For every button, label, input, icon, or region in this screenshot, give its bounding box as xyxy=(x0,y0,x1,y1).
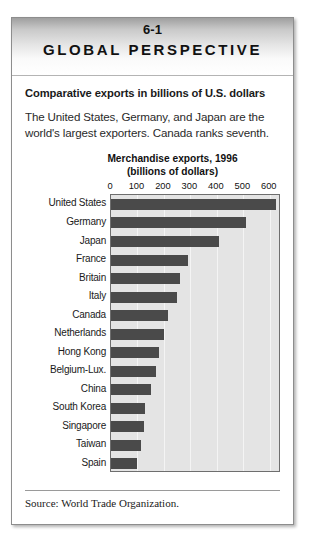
category-label: Italy xyxy=(89,290,106,301)
x-tick-label: 300 xyxy=(182,181,198,191)
chart-bar xyxy=(111,329,164,340)
chart-bar xyxy=(111,366,156,377)
chart-plot-area xyxy=(110,194,280,472)
chart-title: Merchandise exports, 1996 (billions of d… xyxy=(25,153,280,178)
x-tick-label: 0 xyxy=(107,181,112,191)
category-label: Japan xyxy=(80,235,106,246)
category-label: United States xyxy=(49,197,106,208)
chart-bar xyxy=(111,310,168,321)
category-label: Singapore xyxy=(62,420,106,431)
category-label: Canada xyxy=(72,309,106,320)
source-note: Source: World Trade Organization. xyxy=(25,497,280,509)
panel-banner: 6-1 GLOBAL PERSPECTIVE xyxy=(12,18,293,76)
bar-chart: 0100200300400500600 United StatesGermany… xyxy=(25,181,280,481)
panel-title: GLOBAL PERSPECTIVE xyxy=(12,41,293,58)
x-tick-label: 600 xyxy=(261,181,277,191)
chart-bar xyxy=(111,384,151,395)
chart-bar xyxy=(111,347,159,358)
panel-description: The United States, Germany, and Japan ar… xyxy=(25,109,280,140)
category-label: Spain xyxy=(81,457,106,468)
category-label: Britain xyxy=(79,272,106,283)
category-label: France xyxy=(76,253,106,264)
category-label: South Korea xyxy=(53,401,106,412)
category-label: Hong Kong xyxy=(58,346,106,357)
category-label: Germany xyxy=(66,216,106,227)
chart-bar xyxy=(111,292,177,303)
x-tick-label: 200 xyxy=(155,181,171,191)
chart-bar xyxy=(111,236,219,247)
gridline xyxy=(243,195,244,471)
chart-bar xyxy=(111,440,141,451)
x-tick-label: 500 xyxy=(235,181,251,191)
x-axis-tick-labels: 0100200300400500600 xyxy=(25,181,280,194)
chart-bar xyxy=(111,421,144,432)
chart-title-line2: (billions of dollars) xyxy=(65,166,280,179)
chart-bar xyxy=(111,458,137,469)
category-label: Taiwan xyxy=(76,438,106,449)
panel-body: Comparative exports in billions of U.S. … xyxy=(12,87,293,481)
x-tick-label: 400 xyxy=(208,181,224,191)
footer-divider xyxy=(25,490,280,491)
chart-bar xyxy=(111,403,145,414)
panel-subtitle: Comparative exports in billions of U.S. … xyxy=(25,87,280,99)
panel-number: 6-1 xyxy=(12,22,293,37)
chart-title-line1: Merchandise exports, 1996 xyxy=(65,153,280,166)
category-label: China xyxy=(81,383,106,394)
category-label: Belgium-Lux. xyxy=(50,364,106,375)
gridline xyxy=(270,195,271,471)
chart-bar xyxy=(111,217,246,228)
category-label: Netherlands xyxy=(54,327,106,338)
x-tick-label: 100 xyxy=(129,181,145,191)
chart-bar xyxy=(111,255,188,266)
global-perspective-panel: 6-1 GLOBAL PERSPECTIVE Comparative expor… xyxy=(11,17,294,525)
chart-bar xyxy=(111,199,276,210)
chart-bar xyxy=(111,273,180,284)
